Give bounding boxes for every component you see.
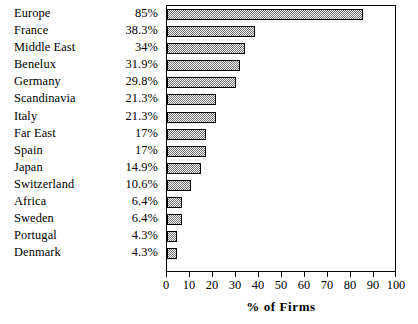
bar <box>167 248 177 259</box>
category-row: Spain17% <box>0 142 160 159</box>
category-name: Africa <box>14 193 46 210</box>
category-value-label: 34% <box>135 39 158 56</box>
bar <box>167 94 216 105</box>
x-axis-tick-label: 10 <box>183 278 195 293</box>
category-value-label: 85% <box>135 5 158 22</box>
x-axis-tick <box>327 271 328 277</box>
category-row: Germany29.8% <box>0 73 160 90</box>
x-axis-tick <box>258 271 259 277</box>
category-name: Denmark <box>14 244 61 261</box>
bar-slot <box>167 57 395 74</box>
category-row: Benelux31.9% <box>0 56 160 73</box>
category-name: Spain <box>14 142 43 159</box>
category-row: Africa6.4% <box>0 193 160 210</box>
category-value-label: 14.9% <box>125 159 158 176</box>
bar <box>167 146 206 157</box>
x-axis-tick-label: 70 <box>321 278 333 293</box>
category-name: Italy <box>14 108 37 125</box>
bar <box>167 26 255 37</box>
category-label-column: Europe85%France38.3%Middle East34%Benelu… <box>0 5 160 261</box>
category-value-label: 29.8% <box>125 73 158 90</box>
category-row: Sweden6.4% <box>0 210 160 227</box>
bar-slot <box>167 143 395 160</box>
bar-slot <box>167 228 395 245</box>
x-axis-tick-label: 40 <box>252 278 264 293</box>
bar <box>167 231 177 242</box>
category-row: Switzerland10.6% <box>0 176 160 193</box>
bar <box>167 60 240 71</box>
bar <box>167 112 216 123</box>
bar-slot <box>167 126 395 143</box>
category-name: Sweden <box>14 210 54 227</box>
x-axis-tick <box>281 271 282 277</box>
category-name: Scandinavia <box>14 90 76 107</box>
bar <box>167 180 191 191</box>
category-row: Japan14.9% <box>0 159 160 176</box>
category-row: Scandinavia21.3% <box>0 90 160 107</box>
category-row: Italy21.3% <box>0 108 160 125</box>
category-value-label: 17% <box>135 125 158 142</box>
category-value-label: 17% <box>135 142 158 159</box>
category-name: Portugal <box>14 227 57 244</box>
x-axis-tick <box>212 271 213 277</box>
x-axis-tick-label: 60 <box>298 278 310 293</box>
bar <box>167 77 236 88</box>
x-axis-tick <box>235 271 236 277</box>
bar <box>167 214 182 225</box>
category-value-label: 31.9% <box>125 56 158 73</box>
bar <box>167 9 363 20</box>
x-axis-tick <box>304 271 305 277</box>
bar-slot <box>167 245 395 262</box>
category-row: Far East17% <box>0 125 160 142</box>
x-axis-tick <box>166 271 167 277</box>
x-axis-tick-label: 50 <box>275 278 287 293</box>
bar <box>167 197 182 208</box>
category-value-label: 6.4% <box>132 210 158 227</box>
x-axis-tick-label: 100 <box>387 278 406 293</box>
x-axis-tick-label: 80 <box>344 278 356 293</box>
category-row: Europe85% <box>0 5 160 22</box>
category-value-label: 6.4% <box>132 193 158 210</box>
x-axis-tick <box>189 271 190 277</box>
x-axis-title: % of Firms <box>166 299 396 315</box>
category-name: Benelux <box>14 56 56 73</box>
bar-slot <box>167 91 395 108</box>
category-value-label: 38.3% <box>125 22 158 39</box>
category-name: Japan <box>14 159 43 176</box>
category-value-label: 21.3% <box>125 90 158 107</box>
plot-area <box>166 5 396 272</box>
x-axis-tick-label: 90 <box>367 278 379 293</box>
category-value-label: 4.3% <box>132 227 158 244</box>
bar-slot <box>167 211 395 228</box>
bar <box>167 129 206 140</box>
category-name: Europe <box>14 5 50 22</box>
horizontal-bar-chart: Europe85%France38.3%Middle East34%Benelu… <box>0 0 418 324</box>
category-row: Denmark4.3% <box>0 244 160 261</box>
bar-slot <box>167 23 395 40</box>
category-name: Switzerland <box>14 176 74 193</box>
x-axis-tick <box>350 271 351 277</box>
bar-slot <box>167 6 395 23</box>
x-axis-tick-label: 20 <box>206 278 218 293</box>
category-row: Portugal4.3% <box>0 227 160 244</box>
category-name: Far East <box>14 125 56 142</box>
bar-slot <box>167 177 395 194</box>
category-name: Middle East <box>14 39 75 56</box>
x-axis-tick-label: 30 <box>229 278 241 293</box>
category-value-label: 10.6% <box>125 176 158 193</box>
category-value-label: 21.3% <box>125 108 158 125</box>
category-name: France <box>14 22 48 39</box>
category-value-label: 4.3% <box>132 244 158 261</box>
bars-layer <box>167 6 395 272</box>
bar <box>167 43 245 54</box>
x-axis: 0102030405060708090100 <box>166 271 396 273</box>
category-name: Germany <box>14 73 61 90</box>
x-axis-tick <box>373 271 374 277</box>
category-row: Middle East34% <box>0 39 160 56</box>
x-axis-tick <box>395 271 396 277</box>
bar-slot <box>167 74 395 91</box>
bar-slot <box>167 160 395 177</box>
bar-slot <box>167 40 395 57</box>
bar <box>167 163 201 174</box>
bar-slot <box>167 194 395 211</box>
